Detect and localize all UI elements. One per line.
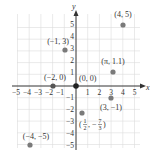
svg-text:1: 1 [84,118,87,124]
label-origin: (0, 0) [79,74,97,83]
x-tick-labels: −5 −4 −3 −2 −1 1 2 3 4 5 [12,88,137,97]
svg-text:−2: −2 [66,105,74,114]
point-half-neg7over3 [79,110,84,115]
svg-text:2: 2 [70,56,74,65]
label-neg4-neg5: (−4, −5) [23,132,50,141]
point-neg2-0 [50,83,55,88]
point-neg1-3 [62,47,67,52]
x-axis-label: x [145,83,150,92]
svg-text:4: 4 [70,32,74,41]
point-pi-1.1 [110,69,115,74]
label-pi-1.1: (π, 1.1) [101,57,125,66]
y-axis-label: y [71,2,76,11]
svg-text:2: 2 [84,125,87,131]
label-neg2-0: (−2, 0) [44,73,66,82]
svg-text:−1: −1 [66,93,74,102]
svg-text:, −: , − [88,120,97,129]
svg-text:−5: −5 [12,88,20,97]
svg-text:3: 3 [99,125,102,131]
svg-text:−3: −3 [66,117,74,126]
svg-text:4: 4 [121,88,125,97]
svg-text:7: 7 [99,118,102,124]
label-neg1-3: (−1, 3) [47,37,69,46]
point-origin [73,83,79,89]
svg-text:): ) [103,120,106,129]
svg-text:1: 1 [86,88,90,97]
coordinate-plane: x y −5 −4 −3 −2 −1 1 2 3 4 5 5 4 3 2 1 −… [0,0,154,157]
svg-text:−4: −4 [66,129,74,138]
label-4-5: (4, 5) [114,10,132,19]
axes [12,13,143,150]
point-neg4-neg5 [27,142,32,147]
point-4-5 [120,22,125,27]
svg-text:(: ( [79,120,82,129]
point-3-neg1 [108,95,113,100]
svg-text:−1: −1 [56,88,64,97]
svg-text:−5: −5 [66,141,74,150]
svg-text:−3: −3 [34,88,42,97]
svg-text:−4: −4 [23,88,31,97]
label-half-neg7over3: ( 1 2 , − 7 3 ) [79,118,106,131]
svg-text:5: 5 [133,88,137,97]
svg-text:1: 1 [70,68,74,77]
svg-text:2: 2 [98,88,102,97]
svg-text:−2: −2 [45,88,53,97]
svg-text:5: 5 [70,20,74,29]
svg-text:3: 3 [70,44,74,53]
label-3-neg1: (3, −1) [100,103,122,112]
